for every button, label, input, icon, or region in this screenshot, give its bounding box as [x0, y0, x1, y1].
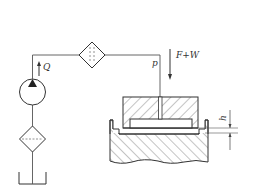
slider-block — [123, 97, 198, 128]
pump-icon — [20, 79, 46, 105]
flow-arrow-icon — [37, 61, 41, 76]
pressure-label: p — [152, 58, 158, 68]
hydrostatic-bearing-diagram: Q p F+W h — [0, 0, 254, 194]
flow-label: Q — [43, 62, 51, 72]
lower-filter-icon — [20, 126, 46, 152]
upper-filter-icon — [79, 42, 105, 68]
load-label: F+W — [175, 50, 200, 60]
gap-label: h — [218, 115, 228, 121]
load-arrow-icon — [168, 49, 172, 80]
